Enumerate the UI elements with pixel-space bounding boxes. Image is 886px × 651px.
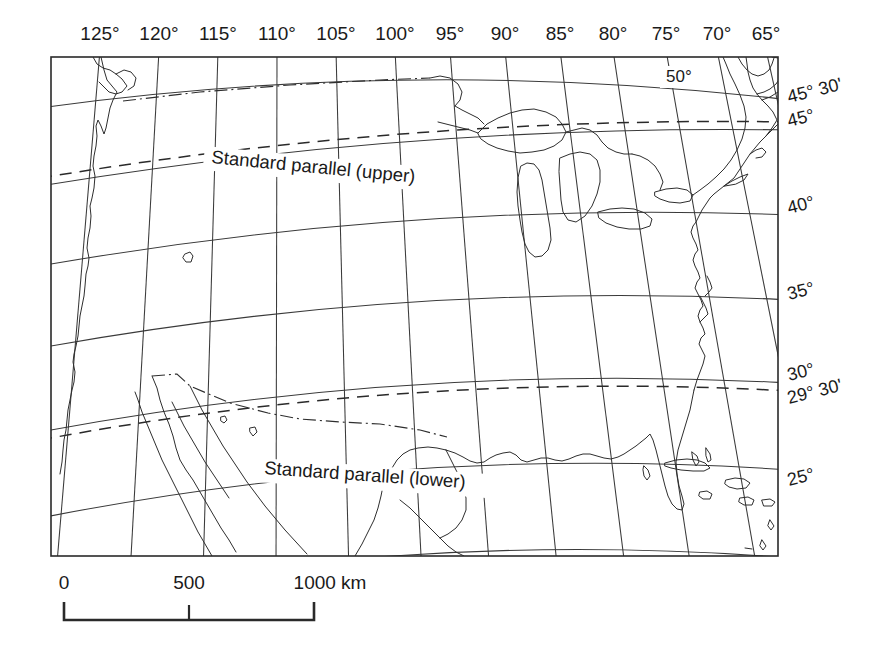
lon-label-110: 110° [258,23,296,44]
scale-tick-0: 0 [59,572,70,593]
lon-label-100: 100° [375,23,414,44]
lon-label-125: 125° [80,23,119,44]
map-figure: 125° 120° 115° 110° 105° 100° 95° 90° 85… [0,0,886,651]
lon-label-95: 95° [436,23,465,44]
scale-tick-1000: 1000 km [294,572,367,593]
lon-label-115: 115° [199,23,237,44]
map-svg: 125° 120° 115° 110° 105° 100° 95° 90° 85… [0,0,886,651]
lon-label-75: 75° [652,23,681,44]
latitude-50-label: 50° [666,67,692,86]
lon-label-70: 70° [703,23,732,44]
lon-label-65: 65° [752,23,781,44]
lon-label-105: 105° [316,23,355,44]
scale-tick-500: 500 [173,572,205,593]
lon-label-90: 90° [491,23,520,44]
lon-label-85: 85° [546,23,575,44]
lon-label-80: 80° [599,23,628,44]
lon-label-120: 120° [139,23,178,44]
